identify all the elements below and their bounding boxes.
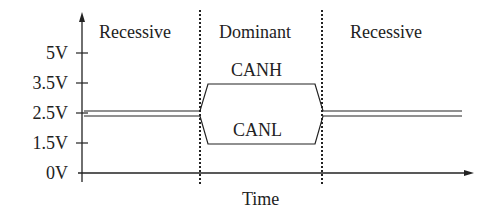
y-tick-3-5v: 3.5V [4,73,68,93]
y-axis-arrow-icon [79,12,85,22]
x-axis-arrow-icon [464,170,474,176]
canh-trace [84,84,462,111]
y-tick-2-5v: 2.5V [4,103,68,123]
y-tick-5v: 5V [4,43,68,63]
x-axis-label: Time [242,189,279,209]
region-label-recessive-left: Recessive [99,22,171,42]
y-tick-0v: 0V [4,163,68,183]
region-label-dominant: Dominant [219,22,291,42]
y-tick-1-5v: 1.5V [4,133,68,153]
signal-label-canl: CANL [233,120,282,140]
signal-label-canh: CANH [231,60,282,80]
region-label-recessive-right: Recessive [350,22,422,42]
